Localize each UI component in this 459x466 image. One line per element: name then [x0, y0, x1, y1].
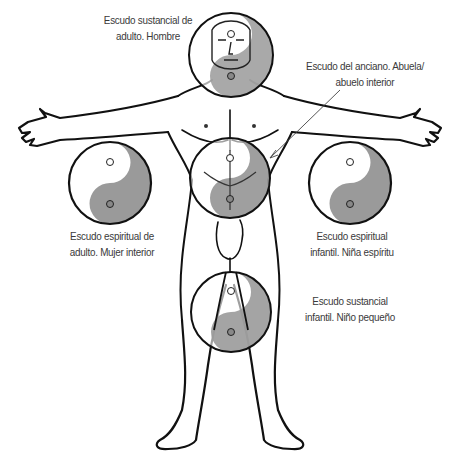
torso-left [168, 132, 192, 320]
label-right-shield: Escudo espiritual infantil. Niña espírit… [292, 228, 412, 260]
label-head-line1: Escudo sustancial de [88, 12, 208, 28]
shield-belly [190, 138, 270, 218]
torso-right [268, 132, 292, 320]
label-left-line1: Escudo espiritual de [52, 228, 172, 244]
label-left-shield: Escudo espiritual de adulto. Mujer inter… [52, 228, 172, 260]
label-left-line2: adulto. Mujer interior [52, 244, 172, 260]
label-bottom-line1: Escudo sustancial [290, 293, 410, 309]
groin [216, 220, 242, 272]
label-bottom-shield: Escudo sustancial infantil. Niño pequeño [290, 293, 410, 325]
label-bottom-line2: infantil. Niño pequeño [290, 309, 410, 325]
human-figure [19, 80, 441, 449]
shield-left [69, 142, 151, 224]
left-arm [19, 96, 178, 146]
label-head-line2: adulto. Hombre [88, 28, 208, 44]
shield-groin [191, 272, 271, 352]
label-elder-line1: Escudo del anciano. Abuela/ [292, 58, 438, 74]
label-head-shield: Escudo sustancial de adulto. Hombre [88, 12, 208, 44]
label-right-line1: Escudo espiritual [292, 228, 412, 244]
shield-right [309, 142, 391, 224]
label-elder-shield: Escudo del anciano. Abuela/ abuelo inter… [292, 58, 438, 90]
label-elder-line2: abuelo interior [292, 74, 438, 90]
label-right-line2: infantil. Niña espíritu [292, 244, 412, 260]
